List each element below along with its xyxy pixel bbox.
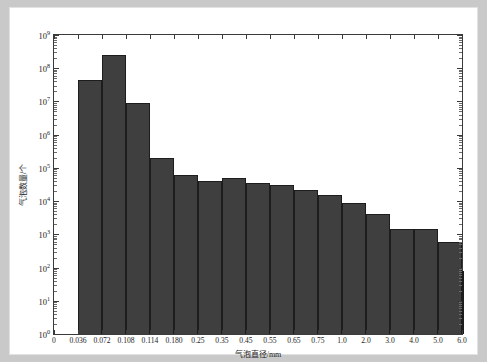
y-axis-tick-minor — [54, 239, 57, 240]
y-axis-tick-minor — [459, 281, 462, 282]
y-axis-tick-minor — [459, 258, 462, 259]
x-axis-tick-label: 0.114 — [142, 337, 159, 345]
x-axis-tick-label: 0.180 — [165, 337, 182, 345]
x-axis-tick — [126, 330, 127, 334]
x-axis-tick — [150, 330, 151, 334]
x-axis-tick-label: 0 — [52, 337, 56, 345]
x-axis-tick — [126, 35, 127, 39]
x-axis-tick-label: 0.35 — [215, 337, 228, 345]
x-axis-tick — [102, 330, 103, 334]
y-axis-tick-minor — [54, 171, 57, 172]
y-axis-tick-minor — [54, 302, 57, 303]
x-axis-tick-label: 6.0 — [457, 337, 467, 345]
y-axis-tick-minor — [54, 105, 57, 106]
y-axis-tick-major — [54, 168, 59, 169]
x-axis-tick-label: 0.036 — [69, 337, 86, 345]
y-axis-tick-minor — [54, 308, 57, 309]
y-axis-tick-minor — [54, 125, 57, 126]
y-axis-tick-minor — [54, 311, 57, 312]
y-axis-tick-minor — [54, 248, 57, 249]
y-axis-tick-minor — [54, 71, 57, 72]
y-axis-tick-minor — [54, 173, 57, 174]
x-axis-tick — [270, 330, 271, 334]
y-axis-tick-minor — [459, 252, 462, 253]
y-axis-tick-major — [457, 268, 462, 269]
histogram-bar — [102, 55, 126, 334]
y-axis-tick-minor — [459, 111, 462, 112]
y-axis-tick-minor — [54, 70, 57, 71]
y-axis-tick-minor — [459, 119, 462, 120]
x-axis-tick — [462, 35, 463, 39]
y-axis-tick-minor — [54, 306, 57, 307]
y-axis-tick-minor — [54, 224, 57, 225]
y-axis-tick-minor — [459, 152, 462, 153]
y-axis-tick-minor — [459, 140, 462, 141]
histogram-bar — [126, 103, 150, 334]
y-axis-tick-minor — [459, 42, 462, 43]
y-axis-tick-minor — [459, 76, 462, 77]
y-axis-tick-minor — [54, 238, 57, 239]
y-axis-tick-minor — [459, 275, 462, 276]
y-axis-tick-minor — [54, 78, 57, 79]
y-axis-tick-major — [54, 135, 59, 136]
x-axis-tick — [318, 330, 319, 334]
x-axis-tick — [462, 330, 463, 334]
x-axis-tick — [222, 35, 223, 39]
y-axis-tick-minor — [459, 204, 462, 205]
y-axis-tick-label: 107 — [38, 96, 50, 106]
histogram-bar — [270, 185, 294, 334]
y-axis-tick-label: 103 — [38, 229, 50, 239]
plot-area: 10010110210310410510610710810900.0360.07… — [53, 34, 463, 335]
y-axis-tick-major — [457, 68, 462, 69]
y-axis-tick-major — [54, 201, 59, 202]
y-axis-tick-major — [54, 68, 59, 69]
y-axis-tick-minor — [54, 275, 57, 276]
y-axis-tick-minor — [54, 204, 57, 205]
y-axis-tick-label: 100 — [38, 329, 50, 339]
y-axis-tick-minor — [54, 314, 57, 315]
x-axis-tick — [222, 330, 223, 334]
y-axis-tick-minor — [459, 304, 462, 305]
y-axis-tick-major — [54, 301, 59, 302]
histogram-bar — [222, 178, 246, 334]
y-axis-tick-major — [54, 334, 59, 335]
y-axis-tick-minor — [54, 76, 57, 77]
y-axis-tick-major — [457, 168, 462, 169]
y-axis-tick-minor — [54, 269, 57, 270]
y-axis-tick-minor — [54, 140, 57, 141]
y-axis-tick-minor — [54, 115, 57, 116]
y-axis-tick-minor — [54, 185, 57, 186]
y-axis-tick-minor — [54, 304, 57, 305]
y-axis-tick-minor — [459, 314, 462, 315]
y-axis-tick-minor — [459, 138, 462, 139]
y-axis-tick-major — [54, 234, 59, 235]
histogram-bar — [78, 80, 102, 334]
y-axis-tick-minor — [54, 273, 57, 274]
y-axis-tick-minor — [459, 244, 462, 245]
y-axis-tick-minor — [459, 191, 462, 192]
x-axis-tick — [318, 35, 319, 39]
y-axis-tick-label: 105 — [38, 163, 50, 173]
x-axis-tick — [198, 35, 199, 39]
histogram-bar — [462, 271, 464, 334]
histogram-bar — [294, 190, 318, 334]
x-axis-tick-label: 1.0 — [337, 337, 347, 345]
x-axis-tick — [366, 330, 367, 334]
y-axis-tick-minor — [54, 214, 57, 215]
histogram-bar — [198, 181, 222, 334]
x-axis-tick — [54, 35, 55, 39]
y-axis-tick-minor — [54, 191, 57, 192]
y-axis-tick-minor — [459, 291, 462, 292]
y-axis-tick-minor — [459, 158, 462, 159]
x-axis-tick-label: 4.0 — [409, 337, 419, 345]
histogram-bar — [366, 214, 390, 334]
y-axis-tick-minor — [54, 181, 57, 182]
y-axis-tick-minor — [459, 242, 462, 243]
histogram-bar — [174, 175, 198, 334]
y-axis-title: 气泡数量/个 — [18, 34, 30, 335]
y-axis-tick-minor — [54, 81, 57, 82]
y-axis-tick-minor — [459, 81, 462, 82]
y-axis-tick-minor — [459, 142, 462, 143]
x-axis-tick-label: 0.75 — [311, 337, 324, 345]
y-axis-tick-minor — [54, 244, 57, 245]
